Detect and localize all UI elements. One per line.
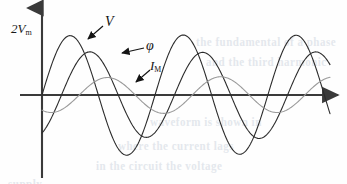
y-axis-label-text: 2V [11, 21, 25, 36]
figure-canvas: the fundamental of a phaseand the third … [0, 0, 347, 184]
y-axis-amplitude-label: 2Vm [11, 21, 32, 37]
curve-label-phi-text: φ [146, 38, 154, 53]
waveform-plot [0, 0, 347, 184]
y-axis-label-subscript: m [25, 28, 31, 37]
curve-label-v: V [105, 14, 114, 30]
label-leader-arrows [88, 26, 150, 82]
curve-label-im-sub: M [154, 65, 161, 74]
curve-label-v-text: V [105, 14, 114, 29]
phi-label-leader [122, 48, 144, 53]
v-label-leader [88, 26, 103, 39]
curve-label-im: IM [150, 58, 161, 74]
curve-label-phi: φ [146, 38, 154, 54]
im-label-leader [136, 70, 150, 82]
axes [20, 8, 338, 178]
